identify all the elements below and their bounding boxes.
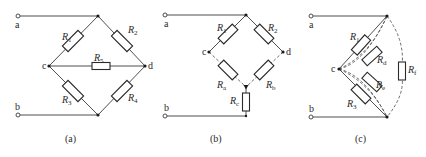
node-bottom	[385, 115, 388, 118]
label-r3: R3	[346, 98, 357, 111]
node-top	[96, 14, 99, 17]
terminal-b	[163, 114, 167, 118]
node-d-label: d	[148, 60, 153, 71]
panel-c: a b R1 Rd Re R3 Rf c (c)	[309, 14, 417, 145]
node-c	[207, 50, 210, 53]
caption-c: (c)	[355, 133, 366, 145]
terminal-a-label: a	[15, 19, 20, 30]
label-rd: Rd	[376, 54, 387, 67]
terminal-a-label: a	[309, 19, 314, 30]
node-top	[244, 13, 247, 16]
node-top	[385, 14, 388, 17]
resistor-ra	[218, 60, 238, 80]
panel-b: a b R1 R2 Ra Rb Rc c d (b)	[163, 13, 291, 145]
panel-a: a b R1 R2 R5 R3 R4 c d (a)	[15, 14, 153, 145]
label-r1: R1	[216, 22, 227, 35]
node-c	[337, 67, 340, 70]
node-c-label: c	[202, 46, 207, 57]
terminal-b-label: b	[15, 101, 20, 112]
label-r4: R4	[127, 92, 138, 105]
resistor-rb	[254, 60, 274, 80]
terminal-b-label: b	[309, 103, 314, 114]
label-r2: R2	[127, 24, 138, 37]
node-bottom	[96, 113, 99, 116]
edge-rf-bottom	[387, 76, 402, 117]
node-star-center	[244, 85, 249, 90]
node-c-label: c	[42, 60, 47, 71]
terminal-a	[16, 14, 20, 18]
terminal-a	[309, 14, 313, 18]
label-rb: Rb	[265, 79, 276, 92]
label-ra: Ra	[216, 79, 227, 92]
circuit-figure: a b R1 R2 R5 R3 R4 c d (a) a b	[0, 0, 426, 157]
resistor-rf	[399, 62, 406, 80]
terminal-b	[309, 115, 313, 119]
terminal-a-label: a	[164, 18, 169, 29]
label-r1: R1	[349, 31, 360, 44]
node-c	[47, 64, 50, 67]
label-rc: Rc	[229, 95, 239, 108]
caption-b: (b)	[210, 133, 222, 145]
terminal-b-label: b	[164, 102, 169, 113]
resistor-rc	[243, 93, 250, 111]
node-d	[281, 50, 284, 53]
edge-rf-top	[387, 16, 402, 66]
node-c-label: c	[331, 63, 336, 74]
node-d-label: d	[286, 46, 291, 57]
node-bottom	[245, 115, 247, 117]
resistor-r3	[351, 84, 371, 104]
terminal-b	[16, 113, 20, 117]
caption-a: (a)	[65, 133, 76, 145]
label-r3: R3	[61, 94, 72, 107]
node-d	[143, 64, 146, 67]
terminal-a	[163, 13, 167, 17]
label-rf: Rf	[407, 64, 417, 77]
